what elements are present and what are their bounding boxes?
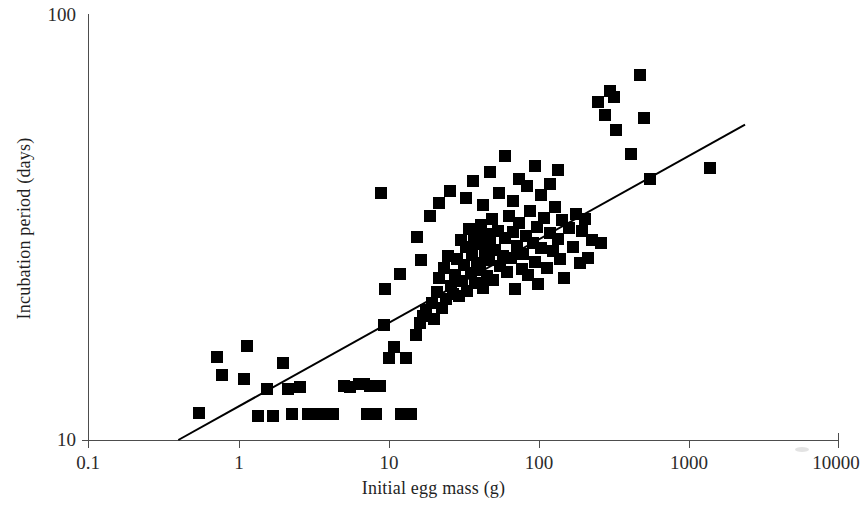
data-point — [193, 407, 205, 419]
data-point — [634, 69, 646, 81]
data-point — [595, 237, 607, 249]
data-point — [383, 352, 395, 364]
data-point — [211, 351, 223, 363]
data-point — [521, 180, 533, 192]
data-point — [374, 380, 386, 392]
data-point — [625, 148, 637, 160]
data-point — [524, 205, 536, 217]
scatter-points-layer — [0, 0, 867, 512]
data-point — [505, 252, 517, 264]
data-point — [444, 185, 456, 197]
data-point — [592, 96, 604, 108]
data-point — [428, 313, 440, 325]
data-point — [493, 187, 505, 199]
data-point — [241, 340, 253, 352]
data-point — [507, 195, 519, 207]
data-point — [552, 164, 564, 176]
data-point — [529, 256, 541, 268]
data-point — [517, 248, 529, 260]
data-point — [567, 241, 579, 253]
data-point — [704, 162, 716, 174]
data-point — [379, 283, 391, 295]
data-point — [252, 410, 264, 422]
data-point — [261, 383, 273, 395]
data-point — [552, 233, 564, 245]
data-point — [400, 352, 412, 364]
data-point — [541, 262, 553, 274]
data-point — [294, 381, 306, 393]
data-point — [394, 268, 406, 280]
data-point — [370, 408, 382, 420]
data-point — [282, 383, 294, 395]
data-point — [411, 231, 423, 243]
data-point — [563, 222, 575, 234]
data-point — [467, 175, 479, 187]
data-point — [535, 242, 547, 254]
data-point — [286, 408, 298, 420]
data-point — [277, 357, 289, 369]
data-point — [535, 189, 547, 201]
data-point — [315, 408, 327, 420]
data-point — [460, 192, 472, 204]
data-point — [549, 201, 561, 213]
data-point — [513, 217, 525, 229]
data-point — [558, 272, 570, 284]
data-point — [554, 253, 566, 265]
data-point — [378, 319, 390, 331]
data-point — [415, 254, 427, 266]
data-point — [638, 112, 650, 124]
data-point — [477, 199, 489, 211]
data-point — [375, 187, 387, 199]
data-point — [433, 197, 445, 209]
data-point — [529, 160, 541, 172]
data-point — [509, 283, 521, 295]
data-point — [410, 329, 422, 341]
data-point — [610, 124, 622, 136]
data-point — [608, 91, 620, 103]
data-point — [544, 178, 556, 190]
data-point — [644, 173, 656, 185]
data-point — [599, 109, 611, 121]
data-point — [424, 210, 436, 222]
data-point — [532, 278, 544, 290]
data-point — [238, 373, 250, 385]
data-point — [501, 266, 513, 278]
data-point — [486, 213, 498, 225]
data-point — [483, 254, 495, 266]
data-point — [484, 166, 496, 178]
data-point — [405, 408, 417, 420]
data-point — [216, 369, 228, 381]
scatter-plot-figure: 0.1 1 10 100 1000 10000 10 100 Initial e… — [0, 0, 867, 512]
data-point — [267, 410, 279, 422]
data-point — [576, 225, 588, 237]
data-point — [487, 274, 499, 286]
data-point — [582, 252, 594, 264]
data-point — [579, 213, 591, 225]
data-point — [388, 341, 400, 353]
data-point — [538, 212, 550, 224]
data-point — [327, 408, 339, 420]
data-point — [499, 150, 511, 162]
